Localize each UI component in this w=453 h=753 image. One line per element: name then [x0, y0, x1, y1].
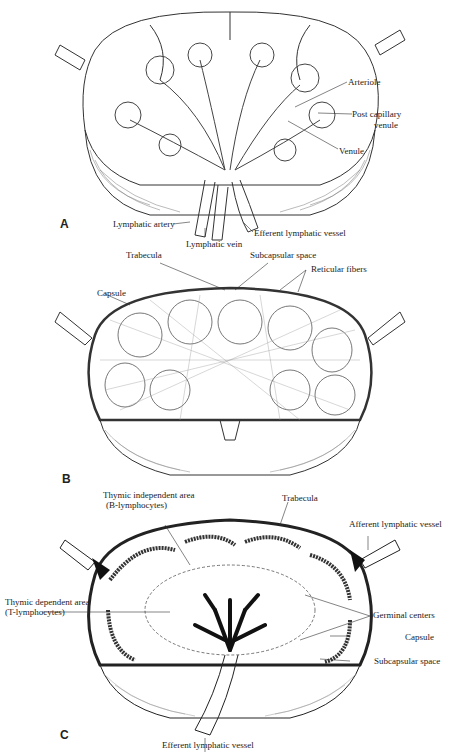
- label-b-lymphocytes: (B-lymphocytes): [106, 500, 167, 510]
- label-thymic-dependent-area: Thymic dependent area: [5, 597, 89, 607]
- label-capsule-c: Capsule: [405, 632, 434, 642]
- label-venule: Venule: [339, 146, 364, 156]
- label-subcapsular-space-c: Subcapsular space: [374, 656, 440, 666]
- label-arteriole: Arteriole: [348, 77, 380, 87]
- label-trabecula-b: Trabecula: [126, 250, 162, 260]
- lymph-node-reticular-illustration: [0, 250, 453, 490]
- label-subcapsular-space-b: Subcapsular space: [250, 250, 316, 260]
- label-capsule-b: Capsule: [97, 288, 126, 298]
- label-trabecula-c: Trabecula: [282, 493, 318, 503]
- panel-b: Trabecula Subcapsular space Capsule Reti…: [0, 250, 453, 490]
- label-lymphatic-vein: Lymphatic vein: [186, 239, 242, 249]
- panel-letter-a: A: [60, 217, 69, 231]
- label-thymic-independent-area: Thymic independent area: [103, 490, 194, 500]
- label-afferent-lymphatic-vessel: Afferent lymphatic vessel: [349, 519, 442, 529]
- panel-c: Thymic independent area (B-lymphocytes) …: [0, 490, 453, 753]
- panel-letter-c: C: [60, 728, 69, 742]
- label-lymphatic-artery: Lymphatic artery: [113, 219, 175, 229]
- panel-letter-b: B: [62, 472, 71, 486]
- label-t-lymphocytes: (T-lymphocytes): [5, 607, 65, 617]
- lymph-node-zones-illustration: [0, 490, 453, 753]
- label-efferent-lymphatic-vessel-a: Efferent lymphatic vessel: [254, 228, 346, 238]
- label-germinal-centers: Germinal centers: [373, 610, 435, 620]
- label-post-capillary-venule-2: venule: [374, 120, 398, 130]
- panel-a: Arteriole Post capillary venule Venule L…: [0, 0, 453, 250]
- label-reticular-fibers: Reticular fibers: [311, 264, 367, 274]
- label-post-capillary-venule: Post capillary: [352, 109, 401, 119]
- label-efferent-lymphatic-vessel-c: Efferent lymphatic vessel: [162, 740, 254, 750]
